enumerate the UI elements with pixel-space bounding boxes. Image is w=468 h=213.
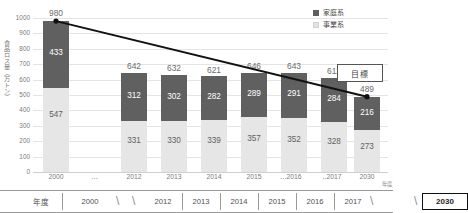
table-cell-2014[interactable]: 2014 — [220, 191, 258, 212]
x-axis-break-left: … — [80, 173, 110, 181]
y-axis-title: 食品ロス量（万トン） — [0, 40, 10, 100]
table-break-left-2: \ — [132, 192, 135, 211]
x-tick-2000: 2000 — [36, 173, 76, 181]
bar-2000-total: 980 — [36, 9, 76, 17]
x-tick-2013: 2013 — [154, 173, 194, 181]
chart-legend: 家庭系 事業系 — [313, 8, 389, 32]
x-tick-2015: 2015 — [234, 173, 274, 181]
table-cell-2015[interactable]: 2015 — [258, 191, 296, 212]
x-axis-break-right: … — [311, 173, 341, 181]
legend-swatch-household-icon — [313, 10, 319, 16]
legend-swatch-business-icon — [313, 22, 319, 28]
table-header-year: 年度 — [20, 191, 62, 212]
table-cell-2013[interactable]: 2013 — [182, 191, 220, 212]
y-tick-800: 800 — [19, 46, 30, 52]
table-cell-2030[interactable]: 2030 — [422, 191, 468, 212]
y-tick-100: 100 — [19, 154, 30, 160]
x-axis-break-mid: … — [269, 173, 299, 181]
y-tick-400: 400 — [19, 107, 30, 113]
y-tick-900: 900 — [19, 30, 30, 36]
x-tick-2014: 2014 — [194, 173, 234, 181]
x-axis-unit-label: 年度 — [382, 181, 392, 187]
legend-item-business[interactable]: 事業系 — [313, 20, 389, 30]
trend-line — [33, 18, 388, 172]
y-tick-1000: 1000 — [16, 15, 30, 21]
x-tick-2012: 2012 — [114, 173, 154, 181]
y-tick-700: 700 — [19, 61, 30, 67]
legend-label-household: 家庭系 — [323, 9, 344, 17]
table-break-left: \ — [116, 192, 119, 211]
year-table-strip: 年度 2000 \ \ 2012 2013 2014 2015 2016 201… — [0, 190, 393, 213]
table-cell-2016[interactable]: 2016 — [296, 191, 334, 212]
y-tick-500: 500 — [19, 92, 30, 98]
plot-area: 433 547 980 312 331 642 302 — [33, 18, 388, 172]
legend-item-household[interactable]: 家庭系 — [313, 8, 389, 18]
table-row: 年度 2000 \ \ 2012 2013 2014 2015 2016 201… — [20, 191, 393, 212]
table-cell-2017[interactable]: 2017 — [334, 191, 372, 212]
y-tick-300: 300 — [19, 123, 30, 129]
chart-canvas: 1000 900 800 700 600 500 400 300 200 100… — [0, 0, 393, 186]
table-cell-2000[interactable]: 2000 — [62, 191, 118, 212]
table-break-right-2: \ — [414, 192, 417, 211]
y-tick-600: 600 — [19, 77, 30, 83]
y-tick-200: 200 — [19, 138, 30, 144]
target-callout: 目標 — [337, 64, 383, 82]
y-tick-0: 0 — [26, 169, 30, 175]
x-tick-2030: 2030 — [347, 173, 387, 181]
table-cell-2012[interactable]: 2012 — [144, 191, 182, 212]
legend-label-business: 事業系 — [323, 21, 344, 29]
table-break-right: \ — [370, 192, 373, 211]
